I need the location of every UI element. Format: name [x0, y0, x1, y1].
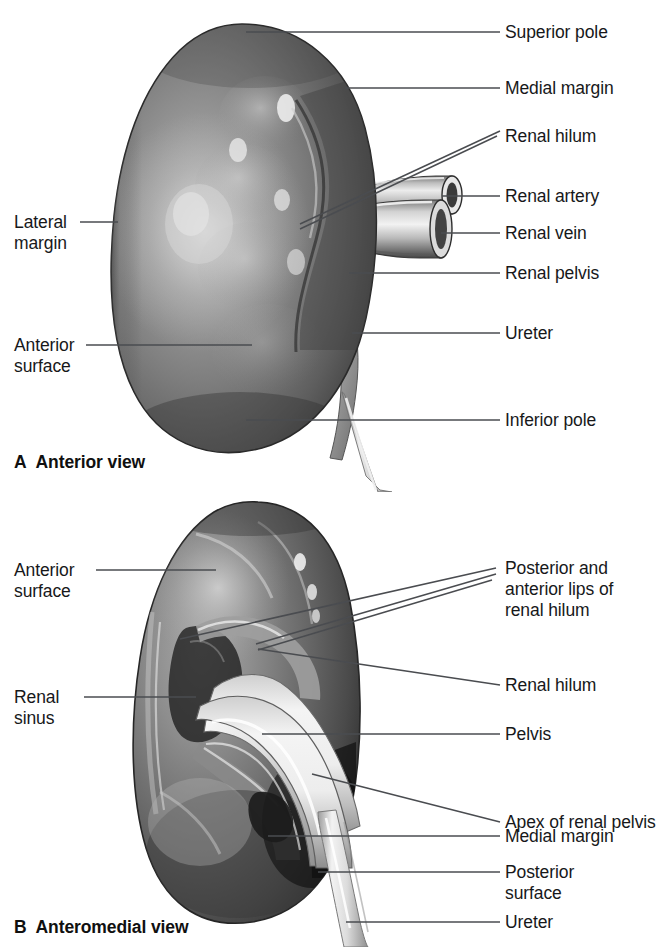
label-lateral-margin: Lateral margin [14, 212, 67, 254]
label-anterior-surface: Anterior surface [14, 335, 74, 377]
ureter-shape [342, 392, 392, 492]
panel-caption-a: Anterior view [36, 452, 146, 472]
panel-anterior-view: Superior pole Medial margin Renal hilum … [0, 0, 660, 492]
panel-caption-b: Anteromedial view [36, 917, 189, 937]
label-posterior-anterior-lips-of-renal-hilum: Posterior and anterior lips of renal hil… [505, 558, 613, 621]
label-inferior-pole: Inferior pole [505, 410, 596, 431]
label-anterior-surface-b: Anterior surface [14, 560, 74, 602]
label-superior-pole: Superior pole [505, 22, 608, 43]
label-medial-margin: Medial margin [505, 78, 614, 99]
label-posterior-surface: Posterior surface [505, 862, 574, 904]
label-renal-hilum: Renal hilum [505, 126, 596, 147]
label-medial-margin-b: Medial margin [505, 826, 614, 847]
panel-letter-b: B [14, 917, 27, 937]
label-renal-artery: Renal artery [505, 186, 599, 207]
panel-letter-a: A [14, 452, 27, 472]
label-ureter: Ureter [505, 323, 553, 344]
label-ureter-b: Ureter [505, 912, 553, 933]
caption-panel-a: AAnterior view [14, 452, 145, 473]
kidney-anatomy-figure: Superior pole Medial margin Renal hilum … [0, 0, 660, 947]
panel-anteromedial-view: Posterior and anterior lips of renal hil… [0, 492, 660, 947]
caption-panel-b: BAnteromedial view [14, 917, 188, 938]
label-renal-vein: Renal vein [505, 223, 587, 244]
label-renal-pelvis: Renal pelvis [505, 263, 599, 284]
label-renal-hilum-b: Renal hilum [505, 675, 596, 696]
label-renal-sinus: Renal sinus [14, 687, 59, 729]
label-pelvis: Pelvis [505, 724, 551, 745]
